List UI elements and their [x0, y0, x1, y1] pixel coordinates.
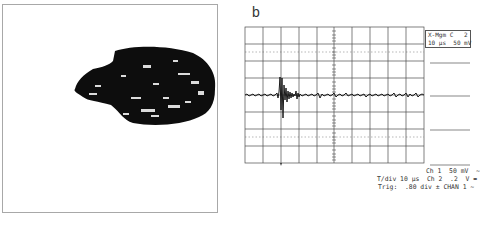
- readout-timebase: T/div 10 µs Ch 2 .2 V =: [377, 175, 477, 183]
- readout-trigger: Trig: .80 div ± CHAN 1 ~: [378, 183, 474, 191]
- scope-settings-box: X-Mgm C 2 10 µs 50 mV: [425, 30, 471, 48]
- scope-box-line-1: X-Mgm C 2: [428, 31, 468, 38]
- trigger-marker-icon: [280, 163, 282, 166]
- readout-ch1: Ch 1 50 mV ~: [426, 167, 480, 175]
- scope-box-line-2: 10 µs 50 mV: [428, 39, 471, 46]
